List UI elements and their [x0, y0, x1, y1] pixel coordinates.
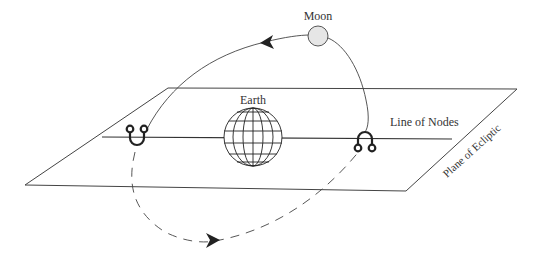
orbit-direction-arrow-bottom: [206, 233, 220, 248]
line-of-nodes-label: Line of Nodes: [390, 115, 459, 129]
lunar-orbit-diagram: Moon Earth Line of Nodes Plane of Eclipt…: [0, 0, 538, 263]
moon-label: Moon: [304, 9, 333, 23]
ascending-node-icon: [355, 132, 376, 151]
descending-node-icon: [127, 126, 148, 145]
moon-icon: [308, 26, 328, 46]
earth-label: Earth: [240, 93, 266, 107]
orbit-direction-arrow-top: [260, 35, 274, 49]
earth-globe-icon: [224, 108, 282, 166]
